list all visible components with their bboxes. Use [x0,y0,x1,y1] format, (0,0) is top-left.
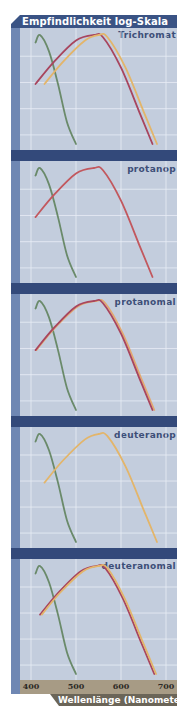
sensitivity-curve [36,167,153,277]
x-tick-500: 500 [68,681,85,691]
x-axis-label: Wellenlänge (Nanometer) [58,694,176,706]
grid [20,427,177,548]
sensitivity-curve [36,301,77,410]
sensitivity-curve [45,433,158,542]
sensitivity-curve [36,300,153,410]
sensitivity-curve [40,565,154,674]
sensitivity-curve [36,300,154,410]
x-tick-400: 400 [23,681,40,691]
color-vision-sensitivity-figure: Empfindlichkeit log-Skala Trichromat pro… [0,0,191,718]
grid [20,28,177,150]
x-axis-band [20,680,177,694]
sensitivity-curve [36,168,77,277]
sensitivity-curve [45,34,158,144]
sensitivity-curve [36,434,77,542]
grid [20,294,177,416]
chart-curves [0,0,191,718]
grid [20,161,177,283]
grid [20,559,177,680]
sensitivity-curve [36,35,77,144]
x-axis-corner [11,680,20,694]
x-tick-700: 700 [158,681,175,691]
x-tick-600: 600 [113,681,130,691]
